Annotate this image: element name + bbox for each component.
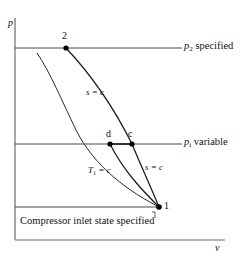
state-point-d-label: d [106, 129, 111, 139]
process-label-s-constant-upper: s = c [86, 88, 104, 97]
pressure-line-p2-label: p2 specified [184, 41, 233, 53]
state-point-c-label: c [128, 129, 132, 139]
compressor-inlet-annotation: Compressor inlet state specified [20, 216, 154, 227]
state-point-2-marker [63, 45, 68, 50]
isothermal-curve-t1 [37, 53, 159, 207]
p2-label-tail: specified [193, 40, 234, 51]
state-point-c-marker [129, 141, 134, 146]
process-label-s-constant-lower: s = c [145, 163, 163, 172]
state-point-1-label: 1 [164, 201, 169, 211]
isentropic-curve-1-c [132, 144, 159, 207]
pi-label-tail: variable [191, 136, 227, 147]
t1-equation-tail: = c [96, 165, 111, 175]
pressure-line-pi-label: pi variable [184, 137, 228, 149]
pv-diagram-figure: p v 2 d c 1 s = c s = c T1 = c p2 specif… [0, 0, 242, 259]
state-point-1-marker [156, 204, 162, 210]
x-axis-label: v [215, 243, 219, 253]
y-axis-label: p [8, 18, 13, 28]
isentropic-curve-1-d [110, 144, 159, 207]
state-point-d-marker [107, 141, 112, 146]
state-point-2-label: 2 [62, 31, 67, 41]
process-label-t1-constant: T1 = c [88, 166, 111, 176]
